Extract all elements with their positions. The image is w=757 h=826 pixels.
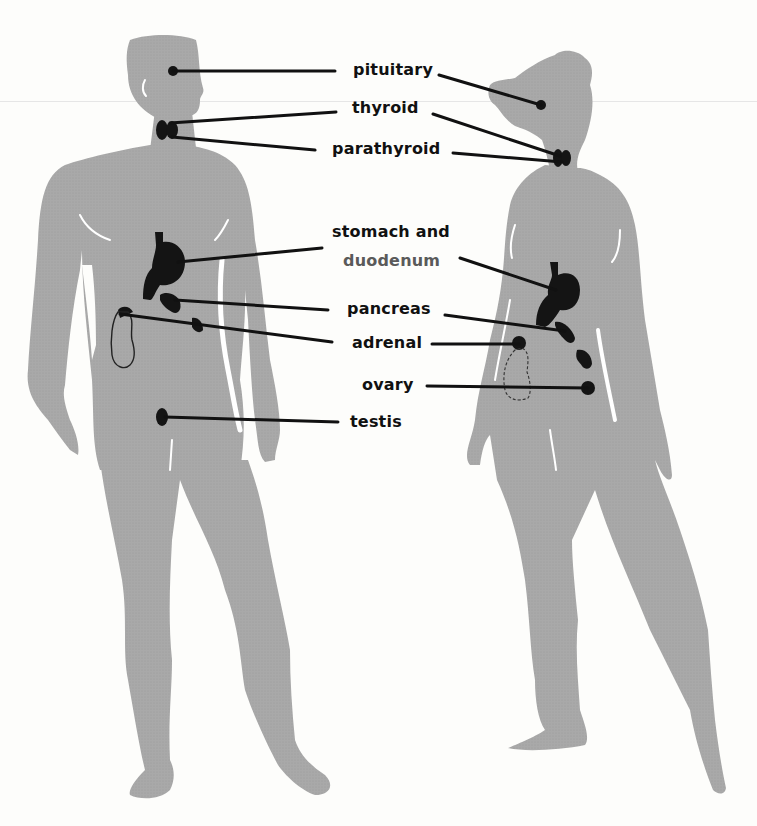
label-stomach-and: stomach and [332,223,450,241]
endocrine-diagram: pituitary thyroid parathyroid stomach an… [0,0,757,826]
label-ovary: ovary [362,376,414,394]
label-pituitary: pituitary [353,61,433,79]
label-thyroid: thyroid [352,99,419,117]
label-parathyroid: parathyroid [332,140,440,158]
label-adrenal: adrenal [352,334,422,352]
label-duodenum: duodenum [343,252,440,270]
label-testis: testis [350,413,402,431]
female-silhouette [467,51,726,794]
label-pancreas: pancreas [347,300,431,318]
